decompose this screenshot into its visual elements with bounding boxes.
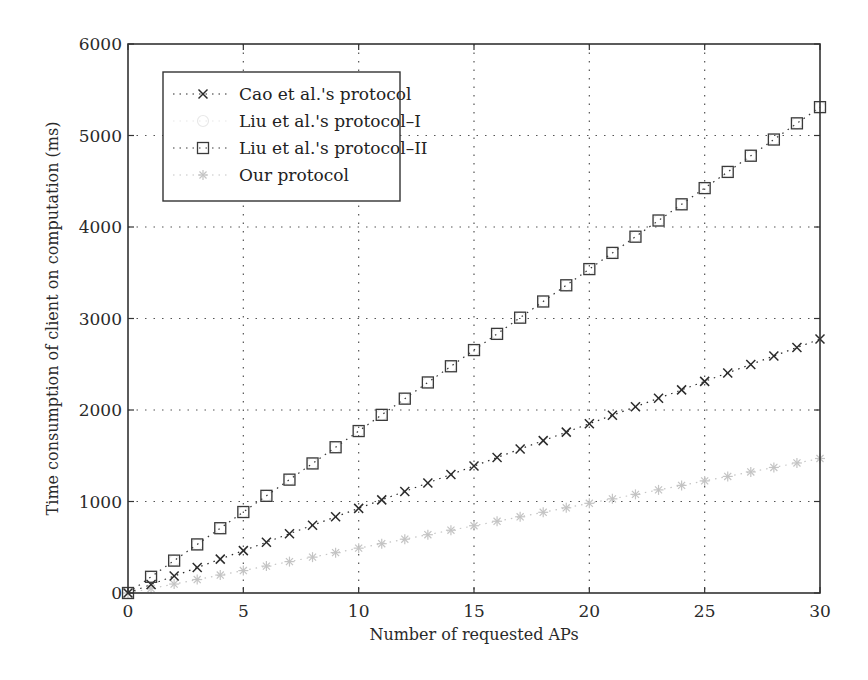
data-point	[677, 385, 686, 394]
data-point	[400, 487, 409, 496]
data-point	[215, 523, 226, 534]
legend-label: Our protocol	[239, 165, 349, 185]
y-tick-label: 4000	[79, 217, 122, 237]
data-point	[192, 575, 202, 585]
legend-label: Cao et al.'s protocol	[239, 84, 411, 104]
x-tick-label: 15	[463, 601, 485, 621]
data-point	[654, 394, 663, 403]
x-tick-label: 5	[238, 601, 249, 621]
data-point	[284, 557, 294, 567]
data-point	[515, 512, 525, 522]
legend-label: Liu et al.'s protocol–II	[239, 138, 428, 158]
data-point	[608, 411, 617, 420]
data-point	[492, 328, 503, 339]
data-point	[193, 563, 202, 572]
y-tick-label: 2000	[79, 400, 122, 420]
data-point	[469, 521, 479, 531]
data-point	[238, 566, 248, 576]
y-axis-label: Time consumption of client on computatio…	[43, 122, 62, 516]
chart: 0510152025300100020003000400050006000 Nu…	[0, 0, 868, 680]
series-cao-et-al-s-protocol	[124, 335, 825, 598]
x-axis-label: Number of requested APs	[369, 625, 578, 644]
circle-marker	[791, 118, 802, 129]
data-point	[423, 478, 432, 487]
data-point	[284, 474, 295, 485]
data-point	[631, 402, 640, 411]
data-point	[169, 555, 180, 566]
data-point	[354, 543, 364, 553]
y-tick-label: 5000	[79, 126, 122, 146]
data-point	[584, 498, 594, 508]
circle-marker	[515, 312, 526, 323]
data-point	[654, 485, 664, 495]
data-point	[261, 561, 271, 571]
circle-marker	[630, 231, 641, 242]
data-point	[769, 462, 779, 472]
data-point	[700, 476, 710, 486]
data-point	[215, 570, 225, 580]
data-point	[377, 495, 386, 504]
circle-marker	[768, 134, 779, 145]
y-tick-label: 1000	[79, 492, 122, 512]
data-point	[561, 503, 571, 513]
data-point	[769, 352, 778, 361]
legend-marker	[198, 170, 208, 180]
data-point	[216, 555, 225, 564]
data-point	[561, 280, 572, 291]
circle-marker	[422, 377, 433, 388]
x-tick-label: 25	[694, 601, 716, 621]
series-our-protocol	[123, 453, 825, 598]
data-point	[539, 436, 548, 445]
data-point	[515, 312, 526, 323]
data-point	[446, 525, 456, 535]
circle-marker	[284, 474, 295, 485]
circle-marker	[376, 409, 387, 420]
data-point	[653, 215, 664, 226]
data-point	[677, 480, 687, 490]
x-tick-label: 0	[123, 601, 134, 621]
data-point	[331, 512, 340, 521]
legend: Cao et al.'s protocolLiu et al.'s protoc…	[163, 72, 428, 201]
circle-marker	[722, 166, 733, 177]
data-point	[746, 467, 756, 477]
data-point	[722, 166, 733, 177]
data-point	[723, 368, 732, 377]
data-point	[630, 231, 641, 242]
data-point	[239, 546, 248, 555]
circle-marker	[492, 328, 503, 339]
data-point	[307, 458, 318, 469]
circle-marker	[445, 361, 456, 372]
data-point	[445, 361, 456, 372]
data-point	[516, 445, 525, 454]
data-point	[791, 118, 802, 129]
data-point	[746, 360, 755, 369]
data-point	[376, 409, 387, 420]
data-point	[423, 530, 433, 540]
data-point	[308, 552, 318, 562]
data-point	[285, 529, 294, 538]
data-point	[607, 494, 617, 504]
data-point	[768, 134, 779, 145]
data-point	[377, 539, 387, 549]
data-point	[562, 428, 571, 437]
data-point	[308, 521, 317, 530]
y-tick-label: 6000	[79, 34, 122, 54]
circle-marker	[653, 215, 664, 226]
data-point	[422, 377, 433, 388]
x-tick-label: 10	[348, 601, 370, 621]
circle-marker	[169, 555, 180, 566]
data-point	[723, 471, 733, 481]
legend-label: Liu et al.'s protocol–I	[239, 111, 421, 131]
data-point	[446, 470, 455, 479]
y-tick-label: 3000	[79, 309, 122, 329]
data-point	[400, 534, 410, 544]
x-tick-label: 30	[809, 601, 831, 621]
y-tick-label: 0	[111, 583, 122, 603]
circle-marker	[215, 523, 226, 534]
circle-marker	[307, 458, 318, 469]
data-point	[262, 538, 271, 547]
data-point	[493, 453, 502, 462]
data-point	[331, 548, 341, 558]
circle-marker	[561, 280, 572, 291]
data-point	[792, 343, 801, 352]
